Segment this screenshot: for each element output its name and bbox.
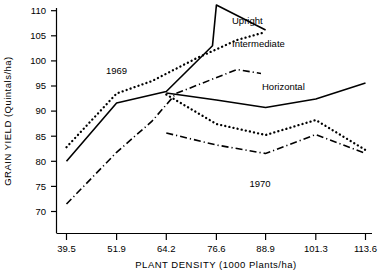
y-tick-label-95: 95 xyxy=(35,80,46,91)
y-tick-label-90: 90 xyxy=(35,105,46,116)
y-tick-label-110: 110 xyxy=(31,5,46,16)
annotation-1970: 1970 xyxy=(249,178,270,189)
y-tick-label-75: 75 xyxy=(35,181,46,192)
y-axis-ticks xyxy=(51,11,57,212)
series-group-1969 xyxy=(67,5,266,204)
y-tick-label-105: 105 xyxy=(30,30,46,41)
chart-container: 70 75 80 85 90 95 100 105 110 39.5 51.9 … xyxy=(0,0,378,274)
series-label-upright: Upright xyxy=(232,15,263,26)
series-line-horizontal-1970 xyxy=(166,133,365,154)
x-tick-label-64-2: 64.2 xyxy=(157,243,176,254)
series-line-horizontal-1969 xyxy=(67,70,262,205)
x-tick-label-113-6: 113.6 xyxy=(354,243,377,254)
x-tick-label-76-6: 76.6 xyxy=(207,243,226,254)
series-line-upright-1969 xyxy=(67,5,266,161)
x-tick-label-51-9: 51.9 xyxy=(107,243,126,254)
year-annotations: 1969 1970 xyxy=(106,65,271,189)
y-axis-title: GRAIN YIELD (Quintals/ha) xyxy=(2,56,13,186)
y-tick-label-70: 70 xyxy=(35,206,46,217)
y-axis-tick-labels: 70 75 80 85 90 95 100 105 110 xyxy=(30,5,46,217)
series-line-intermediate-1969 xyxy=(67,32,266,147)
series-group-1970 xyxy=(166,83,365,154)
inline-legend: Upright Intermediate Horizontal xyxy=(232,15,305,92)
axis-lines xyxy=(57,8,373,234)
x-axis-ticks xyxy=(67,234,366,241)
grain-yield-vs-plant-density-chart: 70 75 80 85 90 95 100 105 110 39.5 51.9 … xyxy=(0,0,378,274)
x-tick-label-101-3: 101.3 xyxy=(304,243,328,254)
y-tick-label-85: 85 xyxy=(35,131,46,142)
x-axis-title: PLANT DENSITY (1000 Plants/ha) xyxy=(135,259,296,270)
x-axis-tick-labels: 39.5 51.9 64.2 76.6 88.9 101.3 113.6 xyxy=(57,243,377,254)
series-label-horizontal: Horizontal xyxy=(262,81,305,92)
y-tick-label-80: 80 xyxy=(35,156,46,167)
x-tick-label-39-5: 39.5 xyxy=(57,243,76,254)
annotation-1969: 1969 xyxy=(106,65,127,76)
series-label-intermediate: Intermediate xyxy=(232,38,285,49)
y-tick-label-100: 100 xyxy=(30,55,46,66)
x-tick-label-88-9: 88.9 xyxy=(256,243,275,254)
